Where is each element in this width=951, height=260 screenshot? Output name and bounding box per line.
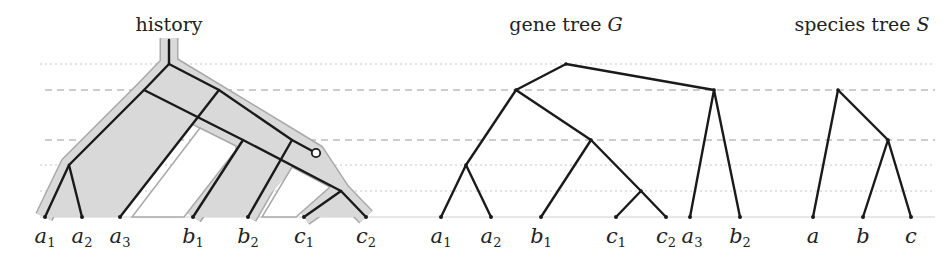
species-leaf-label-c: c	[905, 224, 917, 248]
leaf-label-a2: a2	[72, 224, 93, 250]
gene-edge-root-left	[516, 64, 566, 90]
species-tree-panel: species tree S a b c	[794, 13, 929, 248]
gene-tree-panel: gene tree G a1 a2 b1 c1	[431, 13, 751, 250]
species-leaf-label-b: b	[856, 224, 869, 248]
gene-edge-c-clade	[591, 140, 641, 191]
gene-leaf-label-c2: c2	[656, 224, 676, 250]
species-edge-c	[888, 140, 911, 217]
leaf-label-a3: a3	[110, 224, 131, 250]
leaf-label-c2: c2	[356, 224, 376, 250]
gene-edge-b2	[714, 90, 740, 217]
gene-leaf-label-a1: a1	[431, 224, 452, 250]
gene-loss-marker	[312, 149, 320, 157]
gene-tree-leaf-labels: a1 a2 b1 c1 c2 a3 b2	[431, 224, 751, 250]
species-edge-a	[813, 90, 838, 217]
gene-tree-reconciliation-figure: history	[0, 0, 951, 260]
history-leaf-labels: a1 a2 a3 b1 b2 c1 c2	[35, 224, 376, 250]
gene-leaf-label-c1: c1	[606, 224, 626, 250]
gene-leaf-label-a3: a3	[682, 224, 703, 250]
leaf-label-a1: a1	[35, 224, 56, 250]
gene-edge-bc-clade	[516, 90, 591, 140]
gene-edge-c1	[616, 191, 641, 217]
species-tree-edges	[811, 88, 913, 219]
species-edge-b	[863, 140, 888, 217]
gene-edge-a1	[441, 165, 466, 217]
leaf-label-b2: b2	[237, 224, 259, 250]
gene-edge-a2	[466, 165, 491, 217]
gene-edge-a3	[690, 90, 714, 217]
leaf-label-c1: c1	[294, 224, 314, 250]
gene-leaf-label-b1: b1	[530, 224, 552, 250]
history-panel: history	[35, 13, 376, 250]
species-tree-tube	[44, 38, 366, 217]
gene-edge-a-clade	[466, 90, 516, 165]
gene-tree-edges	[439, 62, 742, 219]
gene-edge-root-right	[566, 64, 714, 90]
leaf-label-b1: b1	[182, 224, 204, 250]
species-leaf-label-a: a	[807, 224, 820, 248]
gene-leaf-label-a2: a2	[481, 224, 502, 250]
gene-edge-b1	[541, 140, 591, 217]
species-edge-bc	[838, 90, 888, 140]
gene-tree-title: gene tree G	[509, 13, 622, 35]
gene-edge-c2	[641, 191, 666, 217]
gene-leaf-label-b2: b2	[729, 224, 751, 250]
species-tree-title: species tree S	[794, 13, 929, 35]
species-tree-leaf-labels: a b c	[807, 224, 917, 248]
history-title: history	[136, 13, 203, 35]
